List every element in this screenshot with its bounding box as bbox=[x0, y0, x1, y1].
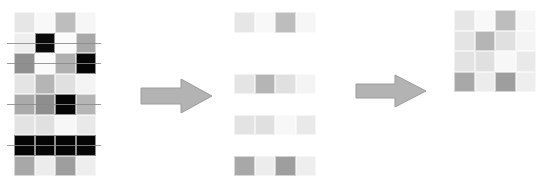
selected-row-cell bbox=[255, 12, 276, 33]
source-matrix bbox=[14, 12, 96, 176]
source-matrix-cell bbox=[35, 74, 56, 95]
result-matrix-cell bbox=[454, 10, 475, 31]
source-matrix-cell bbox=[76, 115, 97, 136]
selected-row-cell bbox=[234, 156, 255, 177]
arrow-right-icon bbox=[140, 78, 214, 114]
selected-row-cell bbox=[275, 115, 296, 136]
source-matrix-cell bbox=[55, 74, 76, 95]
selected-row bbox=[234, 115, 316, 136]
source-matrix-cell bbox=[55, 115, 76, 136]
source-matrix-cell bbox=[35, 156, 56, 177]
source-matrix-cell bbox=[76, 12, 97, 33]
arrow-right-icon bbox=[355, 74, 429, 108]
selected-row-cell bbox=[255, 156, 276, 177]
result-matrix-cell bbox=[495, 10, 516, 31]
result-matrix-cell bbox=[454, 31, 475, 52]
source-matrix-cell bbox=[14, 12, 35, 33]
result-matrix-cell bbox=[516, 31, 537, 52]
selected-row-cell bbox=[275, 74, 296, 95]
result-matrix-cell bbox=[475, 31, 496, 52]
result-matrix-cell bbox=[516, 10, 537, 31]
result-matrix-cell bbox=[475, 51, 496, 72]
result-matrix-cell bbox=[495, 31, 516, 52]
strike-line bbox=[7, 43, 101, 44]
selected-row-cell bbox=[296, 115, 317, 136]
source-matrix-cell bbox=[35, 115, 56, 136]
selected-row-cell bbox=[255, 115, 276, 136]
selected-row bbox=[234, 12, 316, 33]
result-matrix-cell bbox=[454, 72, 475, 93]
selected-row bbox=[234, 74, 316, 95]
selected-row-cell bbox=[296, 12, 317, 33]
result-matrix-cell bbox=[475, 72, 496, 93]
strike-line bbox=[7, 63, 101, 64]
selected-row-cell bbox=[275, 12, 296, 33]
selected-row-cell bbox=[234, 74, 255, 95]
selected-row-cell bbox=[234, 115, 255, 136]
source-matrix-cell bbox=[76, 74, 97, 95]
selected-row-cell bbox=[255, 74, 276, 95]
source-matrix-cell bbox=[76, 156, 97, 177]
selected-row-cell bbox=[275, 156, 296, 177]
selected-row-cell bbox=[296, 74, 317, 95]
strike-line bbox=[7, 145, 101, 146]
selected-row-cell bbox=[234, 12, 255, 33]
source-matrix-cell bbox=[14, 156, 35, 177]
result-matrix-cell bbox=[495, 51, 516, 72]
source-matrix-cell bbox=[55, 156, 76, 177]
result-matrix-cell bbox=[475, 10, 496, 31]
result-matrix-cell bbox=[516, 72, 537, 93]
source-matrix-cell bbox=[55, 12, 76, 33]
result-matrix-cell bbox=[516, 51, 537, 72]
source-matrix-cell bbox=[14, 115, 35, 136]
strike-line bbox=[7, 104, 101, 105]
selected-row bbox=[234, 156, 316, 177]
result-matrix bbox=[454, 10, 536, 92]
source-matrix-cell bbox=[14, 74, 35, 95]
source-matrix-cell bbox=[35, 12, 56, 33]
selected-row-cell bbox=[296, 156, 317, 177]
result-matrix-cell bbox=[454, 51, 475, 72]
result-matrix-cell bbox=[495, 72, 516, 93]
